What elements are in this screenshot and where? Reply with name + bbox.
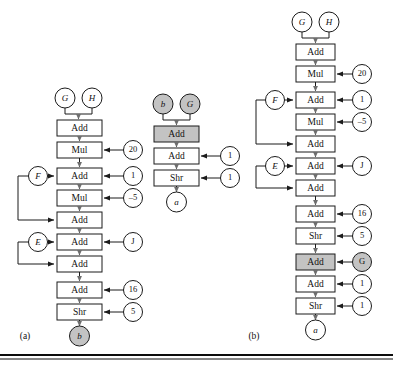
op-label-mid-0: Add — [168, 129, 185, 139]
const-label-mid-1: 1 — [228, 150, 232, 160]
side-input-label-E: E — [34, 237, 41, 247]
input-join-wire — [65, 108, 92, 114]
const-label-a-2: 1 — [131, 170, 135, 180]
const-label-b-9: G — [359, 256, 365, 266]
op-label-a-1: Mul — [72, 145, 88, 155]
input-node-mid-G-label: G — [187, 99, 194, 109]
op-label-b-5: Add — [307, 161, 324, 171]
panel-b: G H Add Mul Add Mul Add Add Add Add Shr … — [248, 12, 371, 342]
side-input-label-b-F: F — [271, 95, 278, 105]
op-label-b-11: Shr — [309, 301, 323, 311]
input-join-wire-mid — [163, 114, 190, 120]
input-node-G-label: G — [62, 93, 69, 103]
op-label-a-0: Add — [71, 123, 88, 133]
const-label-a-8: 5 — [131, 306, 135, 316]
op-label-mid-2: Shr — [170, 173, 184, 183]
input-node-b-G-label: G — [299, 17, 306, 27]
dataflow-graph-figure: G H Add Mul Add Mul Add Add Add Add Shr — [0, 0, 393, 368]
caption-a: (a) — [20, 331, 31, 342]
const-label-b-1: 20 — [358, 68, 367, 78]
op-label-a-7: Add — [71, 285, 88, 295]
op-label-b-8: Shr — [309, 231, 323, 241]
const-label-b-10: 1 — [360, 278, 364, 288]
const-label-b-3: –5 — [357, 116, 367, 126]
op-label-a-8: Shr — [73, 307, 87, 317]
const-label-b-11: 1 — [360, 300, 364, 310]
op-label-b-10: Add — [307, 279, 324, 289]
const-label-b-7: 16 — [358, 208, 367, 218]
op-label-b-7: Add — [307, 209, 324, 219]
output-node-b-label: b — [77, 331, 82, 341]
op-label-a-6: Add — [71, 259, 88, 269]
op-label-a-3: Mul — [72, 193, 88, 203]
op-label-a-5: Add — [71, 237, 88, 247]
op-label-a-4: Add — [71, 215, 88, 225]
output-node-b-a-label: a — [313, 325, 318, 335]
panel-a: G H Add Mul Add Mul Add Add Add Add Shr — [18, 88, 143, 346]
op-label-b-9: Add — [307, 257, 324, 267]
caption-b: (b) — [248, 331, 259, 342]
const-label-a-7: 16 — [129, 284, 138, 294]
const-label-a-1: 20 — [129, 144, 138, 154]
input-node-mid-b-label: b — [161, 99, 166, 109]
side-input-label-F: F — [34, 171, 41, 181]
op-label-b-2: Add — [307, 95, 324, 105]
op-label-a-2: Add — [71, 171, 88, 181]
input-join-wire-b — [302, 32, 329, 38]
op-label-b-6: Add — [307, 183, 324, 193]
op-label-b-4: Add — [307, 139, 324, 149]
const-label-a-3: –5 — [128, 192, 138, 202]
op-label-mid-1: Add — [168, 151, 185, 161]
input-node-b-H-label: H — [325, 17, 333, 27]
op-label-b-3: Mul — [308, 117, 324, 127]
const-label-mid-2: 1 — [228, 172, 232, 182]
output-node-mid-a-label: a — [174, 197, 179, 207]
side-input-label-b-E: E — [271, 161, 278, 171]
op-label-b-1: Mul — [308, 69, 324, 79]
const-label-b-2: 1 — [360, 94, 364, 104]
const-label-b-8: 5 — [360, 230, 364, 240]
figure-canvas: G H Add Mul Add Mul Add Add Add Add Shr — [0, 0, 393, 368]
op-label-b-0: Add — [307, 47, 324, 57]
panel-mid: b G Add Add Shr 1 1 a — [153, 94, 240, 212]
input-node-H-label: H — [88, 93, 96, 103]
